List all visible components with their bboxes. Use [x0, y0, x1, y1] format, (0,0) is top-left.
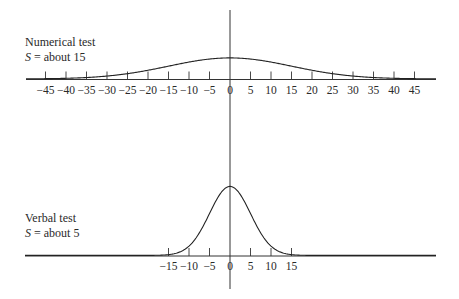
tick-label: −40 [57, 84, 75, 96]
tick-label: 15 [286, 260, 298, 272]
tick-label: −10 [180, 84, 198, 96]
sd-value: = about 5 [31, 226, 79, 240]
tick-label: 15 [286, 84, 298, 96]
tick-label: 10 [265, 260, 277, 272]
tick-label: −5 [203, 84, 215, 96]
numerical-test-title: Numerical test [25, 35, 96, 49]
tick-label: 0 [227, 260, 233, 272]
numerical-test-sd: S = about 15 [25, 50, 85, 64]
tick-label: −5 [203, 260, 215, 272]
tick-label: 5 [248, 260, 254, 272]
top-tick-labels: −45−40−35−30−25−20−15−10−505101520253035… [37, 84, 421, 96]
tick-label: −45 [37, 84, 55, 96]
tick-label: 20 [306, 84, 318, 96]
verbal-test-sd: S = about 5 [25, 226, 79, 240]
tick-label: 40 [388, 84, 400, 96]
tick-label: −30 [98, 84, 116, 96]
tick-label: −15 [160, 260, 178, 272]
distribution-comparison-chart: −45−40−35−30−25−20−15−10−505101520253035… [0, 0, 459, 299]
tick-label: −35 [78, 84, 96, 96]
sd-value: = about 15 [31, 50, 85, 64]
tick-label: −25 [119, 84, 137, 96]
bottom-tick-labels: −15−10−5051015 [160, 260, 298, 272]
tick-label: 35 [368, 84, 380, 96]
tick-label: 45 [409, 84, 421, 96]
numerical-test-curve [26, 58, 436, 79]
tick-label: 0 [227, 84, 233, 96]
tick-label: 10 [265, 84, 277, 96]
verbal-test-title: Verbal test [25, 211, 77, 225]
tick-label: 25 [327, 84, 339, 96]
tick-label: 30 [347, 84, 359, 96]
tick-label: 5 [248, 84, 254, 96]
tick-label: −15 [160, 84, 178, 96]
tick-label: −20 [139, 84, 157, 96]
tick-label: −10 [180, 260, 198, 272]
